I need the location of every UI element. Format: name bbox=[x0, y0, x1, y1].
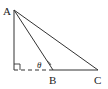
label-b: B bbox=[49, 74, 56, 86]
segment-a-c bbox=[14, 10, 98, 70]
label-theta: θ bbox=[37, 60, 42, 70]
label-a: A bbox=[3, 5, 11, 17]
right-angle-marker bbox=[14, 64, 20, 70]
label-c: C bbox=[94, 74, 101, 86]
triangle-diagram: A B C θ bbox=[0, 0, 108, 89]
